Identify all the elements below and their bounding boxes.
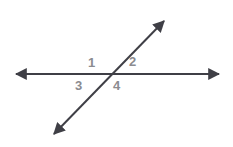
angle-label-3: 3 [75, 79, 82, 92]
geometry-figure: 1 2 3 4 [0, 0, 233, 147]
angle-label-2: 2 [129, 55, 136, 68]
diagonal-line [54, 21, 164, 134]
figure-canvas [0, 0, 233, 147]
angle-label-1: 1 [88, 56, 95, 69]
angle-label-4: 4 [113, 79, 120, 92]
